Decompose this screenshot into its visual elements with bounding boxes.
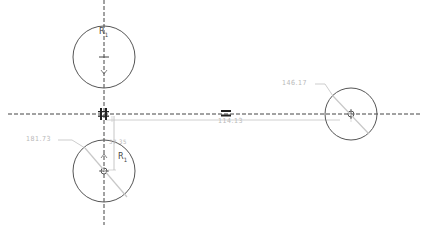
dim-bottom-diameter-text[interactable]: 181.73 [26, 136, 51, 143]
radius-index: 1 [105, 31, 108, 38]
diameter-line-right[interactable] [333, 96, 369, 134]
dim-right-diameter-text[interactable]: 146.17 [282, 80, 307, 87]
dim-vertical-offset-text[interactable]: 57.35 [109, 139, 127, 145]
radius-label-top[interactable]: R1 [99, 27, 108, 38]
leader-bottom [58, 140, 85, 148]
radius-index: 1 [124, 156, 127, 163]
dim-horizontal-distance-text[interactable]: 114.13 [218, 118, 243, 125]
equal-constraint-icon[interactable] [221, 110, 231, 117]
sketch-canvas[interactable] [0, 0, 424, 234]
leader-right [315, 84, 333, 96]
radius-label-bottom[interactable]: R1 [118, 152, 127, 163]
